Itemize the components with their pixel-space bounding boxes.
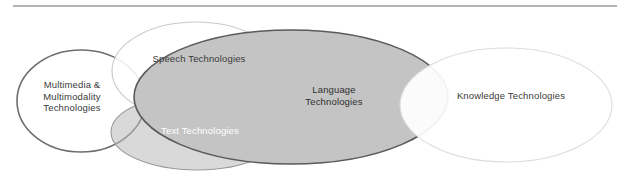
venn-diagram-canvas: Multimedia &MultimodalityTechnologiesSpe… <box>0 0 629 191</box>
venn-label-line: Speech Technologies <box>153 53 246 64</box>
venn-label-line: Multimodality <box>43 91 100 102</box>
venn-label-knowledge: Knowledge Technologies <box>457 90 565 101</box>
venn-label-line: Knowledge Technologies <box>457 90 565 101</box>
venn-label-line: Text Technologies <box>161 125 239 136</box>
venn-label-line: Technologies <box>305 96 362 107</box>
venn-diagram-figure: Multimedia &MultimodalityTechnologiesSpe… <box>0 0 629 191</box>
venn-label-language: LanguageTechnologies <box>305 84 362 107</box>
venn-label-line: Multimedia & <box>44 79 101 90</box>
venn-label-line: Language <box>312 84 355 95</box>
venn-label-line: Technologies <box>43 102 100 113</box>
venn-label-speech: Speech Technologies <box>153 53 246 64</box>
venn-ellipse-knowledge <box>400 48 612 162</box>
venn-label-multimedia: Multimedia &MultimodalityTechnologies <box>43 79 101 113</box>
venn-label-text: Text Technologies <box>161 125 239 136</box>
